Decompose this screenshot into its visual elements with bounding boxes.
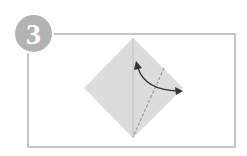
step-number-badge: 3 bbox=[13, 13, 54, 54]
